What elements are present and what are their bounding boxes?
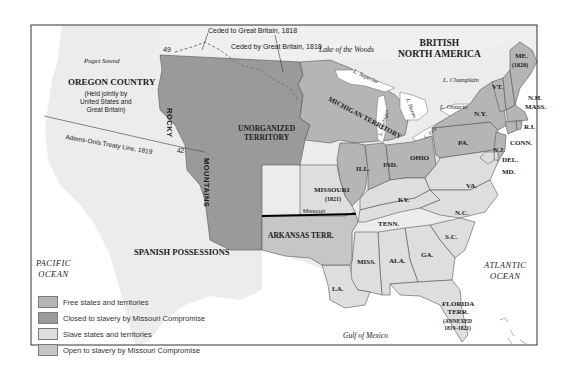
state-label-tenn: TENN. [378,221,399,228]
rocky-label: ROCKY [166,108,174,138]
state-label-nj: N.J. [493,147,505,154]
atlantic-ocean-label: ATLANTIC OCEAN [484,260,526,281]
oregon-note: (Held jointly by United States and Great… [80,90,132,114]
state-label-nc: N.C. [455,210,469,217]
gulf-of-mexico-label: Gulf of Mexico [343,332,388,340]
state-label-md: MD. [502,169,515,176]
legend-swatch-open [38,344,58,356]
oregon-country-label: OREGON COUNTRY [68,78,155,87]
legend-label: Slave states and territories [63,330,152,339]
state-label-pa: PA. [458,140,469,147]
legend-label: Free states and territories [63,298,148,307]
state-label-ind: IND. [383,162,398,169]
spanish-possessions-label: SPANISH POSSESSIONS [134,248,230,257]
florida-note: (ANNEXED 1819–1821) [443,318,472,331]
parallel-42-label: 42 [177,148,184,155]
state-label-ga: GA. [421,252,433,259]
legend-label: Closed to slavery by Missouri Compromise [63,314,205,323]
state-label-me: ME. [515,53,528,60]
legend-label: Open to slavery by Missouri Compromise [63,346,200,355]
british-north-america-label: BRITISH NORTH AMERICA [398,38,481,60]
state-label-ri: R.I. [524,124,535,131]
lake-ontario-label: L. Ontario [440,104,467,111]
lake-of-the-woods-label: Lake of the Woods [319,46,374,54]
state-label-missouri: MISSOURI [314,187,349,194]
lake-champlain-label: L. Champlain [443,77,479,84]
legend-item-slave: Slave states and territories [38,326,205,342]
state-label-ohio: OHIO [410,155,429,162]
state-label-la: LA. [332,286,343,293]
ceded-to-label: Ceded to Great Britain, 1818 [208,27,297,34]
legend-item-free: Free states and territories [38,294,205,310]
arkansas-terr-label: ARKANSAS TERR. [268,232,334,240]
state-label-ill: ILL. [356,166,370,173]
state-label-sc: S.C. [445,234,457,241]
pacific-ocean-label: PACIFIC OCEAN [36,258,71,279]
state-label-ala: ALA. [389,258,406,265]
british-line: BRITISH NORTH AMERICA [398,38,481,59]
state-label-missouri-year: (1821) [325,196,341,202]
gulf-atlantic-area [165,290,445,345]
state-label-vt: VT. [492,84,503,91]
state-label-conn: CONN. [510,140,532,147]
missouri-line-label: Missouri [303,208,325,214]
legend-swatch-slave [38,328,58,340]
state-label-ny: N.Y. [474,111,487,118]
mountains-label: MOUNTAINS [203,158,211,207]
ceded-by-label: Ceded by Great Britain, 1818 [231,43,322,50]
state-label-me-year: (1820) [512,62,528,68]
florida-terr-label: FLORIDA TERR. [442,300,474,316]
state-label-del: DEL. [502,157,518,164]
legend-item-open: Open to slavery by Missouri Compromise [38,342,205,358]
legend: Free states and territories Closed to sl… [38,294,205,358]
state-label-nh: N.H. [528,95,542,102]
legend-swatch-free [38,296,58,308]
state-label-va: VA. [466,183,477,190]
unorganized-territory-label: UNORGANIZED TERRITORY [238,124,295,142]
parallel-49-label: 49 [163,46,171,53]
state-label-miss: MISS. [357,259,376,266]
state-label-ky: KY. [398,197,410,204]
state-label-mass: MASS. [525,104,546,111]
legend-swatch-closed [38,312,58,324]
puget-sound-label: Puget Sound [84,58,120,65]
state-ri [516,121,522,130]
legend-item-closed: Closed to slavery by Missouri Compromise [38,310,205,326]
